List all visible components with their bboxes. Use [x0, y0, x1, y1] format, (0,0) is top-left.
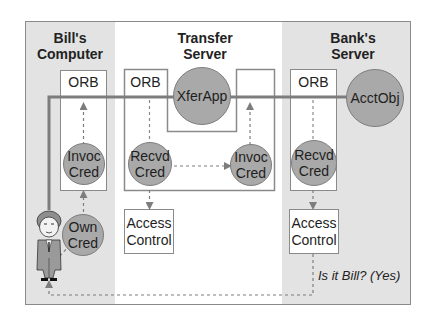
is-it-bill-annotation: Is it Bill? (Yes): [318, 268, 400, 283]
